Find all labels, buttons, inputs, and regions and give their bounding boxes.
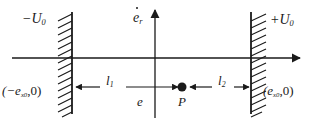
left-plate	[58, 12, 72, 117]
distance-l2-subscript: 2	[222, 80, 226, 89]
diagram-canvas	[0, 0, 314, 124]
right-coordinate-open: (e	[263, 83, 273, 98]
right-plate-coordinate-label: (ex0,0)	[263, 84, 294, 97]
left-plate-potential-subscript: 0	[42, 18, 46, 27]
right-plate-potential-label: +U0	[270, 13, 294, 27]
left-plate-potential-label: −U0	[22, 12, 46, 26]
left-plate-hatching	[58, 14, 72, 117]
electrostatics-diagram: −U0 +U0 er (−ex0,0) (ex0,0) l1 l2 e P	[0, 0, 314, 124]
left-coordinate-subscript: x0	[21, 91, 27, 98]
left-plate-coordinate-label: (−ex0,0)	[2, 84, 41, 97]
point-p-marker	[178, 83, 187, 92]
distance-l1-label: l1	[106, 74, 114, 87]
vertical-axis-label: er	[133, 11, 142, 25]
right-plate	[251, 12, 266, 117]
right-coordinate-close: ,0)	[279, 83, 293, 98]
point-p-label: P	[178, 95, 186, 108]
left-plate-potential-text: −U	[22, 11, 42, 26]
right-plate-potential-text: +U	[270, 12, 290, 27]
distance-l2-label: l2	[218, 74, 226, 87]
distance-l1-subscript: 1	[110, 80, 114, 89]
left-coordinate-close: ,0)	[27, 83, 41, 98]
right-plate-potential-subscript: 0	[290, 19, 294, 28]
vertical-axis-subscript: r	[139, 17, 142, 26]
left-coordinate-open: (−e	[2, 83, 21, 98]
horizontal-axis-label: e	[137, 95, 143, 108]
right-coordinate-subscript: x0	[273, 91, 279, 98]
right-plate-hatching	[251, 14, 266, 117]
